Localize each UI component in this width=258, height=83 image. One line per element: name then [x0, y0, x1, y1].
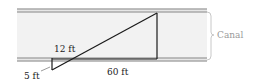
canal-water	[17, 12, 207, 58]
similar-triangles-canal-diagram: 12 ft 5 ft 60 ft Canal	[0, 0, 258, 83]
canal-top-bank	[17, 9, 207, 13]
five-ft-leader-line	[41, 67, 50, 71]
label-5-ft: 5 ft	[24, 71, 40, 81]
label-canal: Canal	[217, 30, 243, 40]
label-60-ft: 60 ft	[107, 67, 129, 77]
label-12-ft: 12 ft	[54, 44, 76, 54]
canal-brace-icon	[207, 12, 214, 60]
